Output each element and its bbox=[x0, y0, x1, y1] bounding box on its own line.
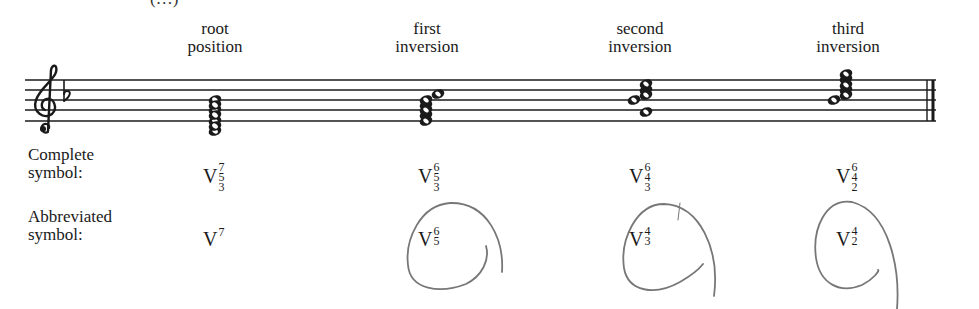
figure-bottom: 2 bbox=[851, 236, 857, 246]
roman-numeral: V bbox=[203, 229, 217, 249]
figured-bass: 7 5 3 bbox=[218, 162, 224, 192]
figure-bottom: 2 bbox=[851, 182, 857, 192]
roman-numeral: V bbox=[836, 166, 850, 186]
circle-annotation-second bbox=[623, 204, 715, 296]
figured-bass: 6 5 bbox=[433, 226, 439, 246]
figured-bass: 6 5 3 bbox=[433, 162, 439, 192]
label-line2: symbol: bbox=[28, 164, 94, 182]
complete-symbol-root: V 7 5 3 bbox=[203, 166, 224, 192]
label-complete-symbol: Complete symbol: bbox=[28, 146, 94, 182]
label-line2: symbol: bbox=[28, 226, 112, 244]
figure-bottom: 3 bbox=[433, 182, 439, 192]
figure-bottom: 3 bbox=[644, 236, 650, 246]
music-staff bbox=[0, 0, 979, 309]
roman-numeral: V bbox=[418, 229, 432, 249]
roman-numeral: V bbox=[629, 229, 643, 249]
abbreviated-symbol-third-inversion: V 4 2 bbox=[836, 229, 857, 249]
figured-bass: 4 2 bbox=[851, 226, 857, 246]
roman-numeral: V bbox=[203, 166, 217, 186]
abbreviated-symbol-second-inversion: V 4 3 bbox=[629, 229, 650, 249]
roman-numeral: V bbox=[629, 166, 643, 186]
staff-lines bbox=[25, 80, 936, 121]
flat-sign-icon bbox=[64, 80, 70, 102]
label-abbreviated-symbol: Abbreviated symbol: bbox=[28, 208, 112, 244]
figure-superscript: 7 bbox=[218, 226, 224, 238]
handwritten-circles bbox=[408, 202, 898, 309]
complete-symbol-third-inversion: V 6 4 2 bbox=[836, 166, 857, 192]
figure-bottom: 3 bbox=[218, 182, 224, 192]
figure-bottom: 5 bbox=[433, 236, 439, 246]
chord-second-inversion bbox=[626, 77, 653, 118]
figured-bass: 6 4 3 bbox=[644, 162, 650, 192]
figured-bass: 6 4 2 bbox=[851, 162, 857, 192]
figured-bass: 4 3 bbox=[644, 226, 650, 246]
complete-symbol-second-inversion: V 6 4 3 bbox=[629, 166, 650, 192]
treble-clef-icon bbox=[35, 66, 56, 133]
circle-annotation-third bbox=[815, 202, 897, 309]
roman-numeral: V bbox=[836, 229, 850, 249]
chord-root-position bbox=[207, 93, 222, 137]
figure-bottom: 3 bbox=[644, 182, 650, 192]
label-line1: Complete bbox=[28, 146, 94, 164]
abbreviated-symbol-root: V 7 bbox=[203, 229, 224, 249]
roman-numeral: V bbox=[418, 166, 432, 186]
abbreviated-symbol-first-inversion: V 6 5 bbox=[418, 229, 439, 249]
complete-symbol-first-inversion: V 6 5 3 bbox=[418, 166, 439, 192]
label-line1: Abbreviated bbox=[28, 208, 112, 226]
